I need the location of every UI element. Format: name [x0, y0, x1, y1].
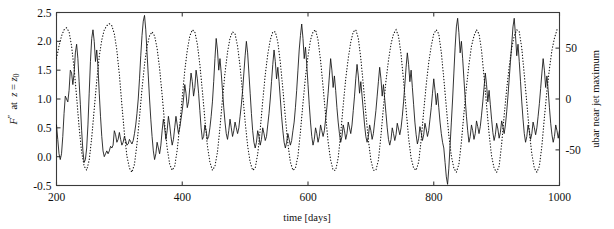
y-left-tick-label: 0.0	[37, 151, 52, 163]
x-tick-label: 800	[425, 191, 443, 203]
chart-canvas: 2004006008001000 2.52.01.51.00.50.0-0.5 …	[0, 0, 614, 229]
x-tick-label: 1000	[548, 191, 571, 203]
y-right-tick-label: 50	[566, 42, 578, 54]
y-left-tick-label: 0.5	[37, 122, 52, 134]
y-axis-left-label-group: F″ at z = z0	[7, 73, 21, 125]
figure-container: 2004006008001000 2.52.01.51.00.50.0-0.5 …	[0, 0, 614, 229]
plot-frame	[57, 13, 560, 186]
series-dotted-ubar	[57, 24, 560, 173]
series-solid-fpp	[57, 15, 560, 184]
x-tick-label: 200	[48, 191, 66, 203]
x-tick-label: 400	[174, 191, 192, 203]
y-left-tick-label: 1.5	[37, 64, 52, 76]
y-right-tick-label: -50	[566, 144, 582, 156]
y-left-tick-label: 2.5	[37, 7, 52, 19]
data-curves	[57, 15, 560, 184]
x-axis-label: time [days]	[283, 212, 331, 223]
y-axis-left-label: F″ at z = z0	[7, 73, 21, 125]
y-left-tick-label: 1.0	[37, 93, 52, 105]
y-left-tick-label: -0.5	[33, 180, 51, 192]
x-tick-label: 600	[299, 191, 317, 203]
axes-frame	[57, 13, 560, 186]
y-axis-right-label: ubar near jet maximum	[590, 50, 601, 148]
y-left-tick-label: 2.0	[37, 35, 52, 47]
y-right-tick-label: 0	[566, 93, 572, 105]
